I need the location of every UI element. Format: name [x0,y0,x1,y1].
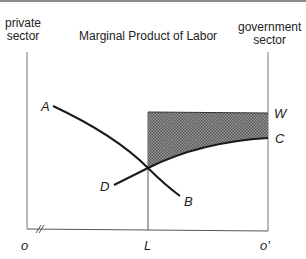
point-label-A: A [41,100,50,113]
point-label-C: C [275,132,284,145]
point-label-D: D [100,180,109,193]
point-label-W: W [274,107,286,120]
chart-title: Marginal Product of Labor [79,30,217,43]
x-axis-origin: o [21,239,28,252]
right-axis-label: government sector [238,21,301,47]
x-axis-L: L [144,239,151,252]
left-axis-label-line2: sector [5,30,41,43]
x-axis-origin-prime: o' [260,239,270,252]
point-label-B: B [184,195,193,208]
right-axis-label-line2: sector [238,34,301,47]
left-axis-label: private sector [5,17,41,43]
